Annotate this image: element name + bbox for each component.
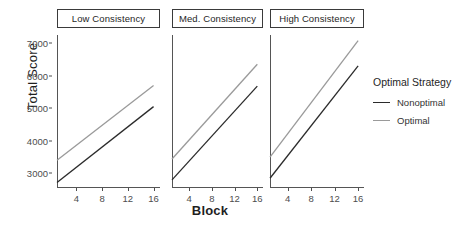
legend: Optimal Strategy NonoptimalOptimal	[373, 76, 463, 133]
legend-line-swatch-icon	[373, 102, 390, 103]
legend-item[interactable]: Optimal	[373, 115, 463, 126]
facet-panel: Low Consistency481216	[57, 35, 160, 188]
panel-plot-area	[270, 35, 364, 188]
legend-title: Optimal Strategy	[373, 76, 463, 88]
chart-figure: Total Score 30004000500060007000 Low Con…	[0, 0, 464, 226]
legend-item[interactable]: Nonoptimal	[373, 97, 463, 108]
legend-line-swatch-icon	[373, 120, 390, 121]
y-axis-tick-mark	[49, 140, 52, 141]
x-axis-tick-mark	[335, 188, 336, 191]
series-line-optimal	[57, 85, 154, 160]
series-line-optimal	[172, 64, 257, 159]
facet-strip-label: High Consistency	[279, 13, 355, 24]
legend-items: NonoptimalOptimal	[373, 97, 463, 126]
y-axis-tick-label: 7000	[14, 38, 48, 49]
y-axis-tick-mark	[49, 108, 52, 109]
x-axis-title: Block	[55, 203, 365, 218]
facet-strip-label: Low Consistency	[72, 13, 145, 24]
x-axis-tick-mark	[288, 188, 289, 191]
facet-panel: Med. Consistency481216	[172, 35, 263, 188]
x-axis-tick-mark	[257, 188, 258, 191]
y-axis-tick-label: 6000	[14, 70, 48, 81]
y-axis-tick-mark	[49, 173, 52, 174]
facet-strip: High Consistency	[270, 9, 364, 28]
panel-plot-area	[172, 35, 263, 188]
legend-item-label: Optimal	[397, 115, 430, 126]
panel-plot-area	[57, 35, 160, 188]
y-axis-tick-mark	[49, 43, 52, 44]
x-axis-tick-mark	[128, 188, 129, 191]
x-axis-tick-mark	[76, 188, 77, 191]
series-line-nonoptimal	[270, 66, 358, 178]
facet-strip-label: Med. Consistency	[179, 13, 256, 24]
facet-strip: Low Consistency	[57, 9, 160, 28]
x-axis-tick-mark	[311, 188, 312, 191]
x-axis-tick-mark	[358, 188, 359, 191]
facet-strip: Med. Consistency	[172, 9, 263, 28]
series-line-nonoptimal	[172, 86, 257, 180]
x-axis-tick-mark	[102, 188, 103, 191]
legend-item-label: Nonoptimal	[397, 97, 445, 108]
y-axis-tick-labels: 30004000500060007000	[14, 0, 48, 226]
series-line-optimal	[270, 41, 358, 158]
series-line-nonoptimal	[57, 107, 154, 183]
y-axis-tick-mark	[49, 75, 52, 76]
y-axis-tick-label: 5000	[14, 103, 48, 114]
facet-panel: High Consistency481216	[270, 35, 364, 188]
x-axis-tick-mark	[235, 188, 236, 191]
x-axis-tick-mark	[154, 188, 155, 191]
x-axis-tick-mark	[189, 188, 190, 191]
y-axis-tick-label: 3000	[14, 168, 48, 179]
y-axis-tick-label: 4000	[14, 135, 48, 146]
x-axis-tick-mark	[212, 188, 213, 191]
